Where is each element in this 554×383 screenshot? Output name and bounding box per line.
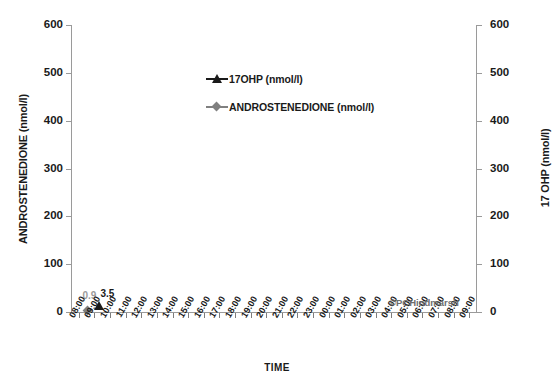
y-tick-label-right: 600 [490, 19, 530, 31]
x-tick [376, 313, 377, 318]
legend-marker [206, 73, 228, 85]
y-tick-right [477, 216, 482, 217]
x-tick [173, 313, 174, 318]
legend-marker-shape [212, 74, 222, 83]
y-tick-left [66, 73, 71, 74]
y-tick-left [66, 121, 71, 122]
legend-label: ANDROSTENEDIONE (nmol/l) [229, 101, 374, 113]
y-tick-label-left: 600 [23, 19, 63, 31]
copyright-watermark: ©PCHindmarsh [389, 297, 459, 308]
plot-area: 3.50.9 [71, 25, 477, 312]
diamond-marker-icon [212, 102, 222, 112]
legend-marker [206, 101, 228, 113]
y-tick-label-right: 0 [490, 306, 530, 318]
triangle-marker-icon [212, 74, 222, 83]
x-tick [94, 313, 95, 318]
legend-marker-shape [212, 102, 220, 110]
x-axis-title: TIME [0, 362, 554, 373]
y-tick-right [477, 73, 482, 74]
x-tick [391, 313, 392, 318]
y-tick-right [477, 312, 482, 313]
y-tick-label-right: 200 [490, 210, 530, 222]
x-tick [469, 313, 470, 318]
y-axis-right-title: 17 OHP (nmol/l) [539, 78, 551, 258]
y-tick-left [66, 216, 71, 217]
y-axis-left-line [71, 25, 72, 313]
x-tick [188, 313, 189, 318]
y-tick-label-left: 100 [23, 258, 63, 270]
y-tick-label-left: 500 [23, 67, 63, 79]
x-tick [110, 313, 111, 318]
y-tick-label-right: 100 [490, 258, 530, 270]
y-tick-label-right: 400 [490, 115, 530, 127]
y-tick-label-left: 200 [23, 210, 63, 222]
y-tick-label-right: 500 [490, 67, 530, 79]
y-tick-right [477, 264, 482, 265]
x-tick [219, 313, 220, 318]
x-tick [422, 313, 423, 318]
y-tick-label-right: 300 [490, 163, 530, 175]
y-tick-right [477, 169, 482, 170]
y-tick-right [477, 121, 482, 122]
legend-label: 17OHP (nmol/l) [229, 73, 303, 85]
y-tick-left [66, 25, 71, 26]
legend-item[interactable]: 17OHP (nmol/l) [206, 73, 303, 85]
x-tick [297, 313, 298, 318]
legend-item[interactable]: ANDROSTENEDIONE (nmol/l) [206, 101, 374, 113]
x-tick [313, 313, 314, 318]
y-tick-label-left: 400 [23, 115, 63, 127]
chart-figure: ANDROSTENEDIONE (nmol/l) 17 OHP (nmol/l)… [0, 0, 554, 383]
x-tick [141, 313, 142, 318]
y-tick-label-left: 300 [23, 163, 63, 175]
x-tick [126, 313, 127, 318]
x-tick [266, 313, 267, 318]
x-tick [344, 313, 345, 318]
y-tick-right [477, 25, 482, 26]
y-tick-left [66, 264, 71, 265]
y-tick-left [66, 169, 71, 170]
y-tick-label-left: 0 [23, 306, 63, 318]
